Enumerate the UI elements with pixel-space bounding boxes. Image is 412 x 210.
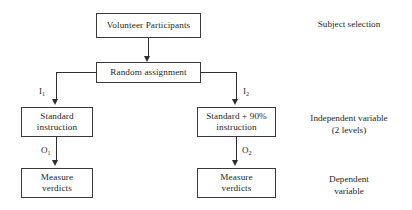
edge-label-i2: I2	[243, 86, 249, 97]
connector-standard90-to-measure-right	[236, 137, 237, 162]
annotation-independent-variable: Independent variable (2 levels)	[288, 113, 410, 136]
edge-label-o2-base: O	[242, 145, 249, 155]
connector-random-to-standard90-vertical	[236, 72, 237, 101]
annotation-dependent-variable-line1: Dependent	[288, 174, 410, 186]
connector-volunteer-to-random	[148, 38, 149, 57]
node-measure-verdicts-left-line2: verdicts	[42, 183, 72, 194]
arrowhead-random-to-standard-icon	[52, 99, 58, 105]
node-measure-verdicts-left: Measure verdicts	[21, 168, 93, 198]
node-measure-verdicts-right-line2: verdicts	[222, 183, 252, 194]
arrowhead-volunteer-to-random-icon	[144, 56, 150, 62]
node-volunteer-participants: Volunteer Participants	[96, 13, 201, 38]
node-standard-instruction: Standard instruction	[21, 107, 93, 137]
connector-standard-to-measure-left	[56, 137, 57, 162]
node-standard-instruction-line1: Standard	[40, 111, 73, 122]
node-measure-verdicts-right: Measure verdicts	[197, 168, 276, 198]
node-measure-verdicts-right-line1: Measure	[220, 172, 252, 183]
connector-random-to-standard-vertical	[56, 72, 57, 101]
edge-label-i1-sub: 1	[42, 90, 45, 97]
node-standard-plus-90-instruction-line1: Standard + 90%	[206, 111, 267, 122]
arrowhead-random-to-standard90-icon	[232, 99, 238, 105]
edge-label-o1-base: O	[41, 145, 48, 155]
experimental-design-diagram: Volunteer Participants Random assignment…	[0, 0, 412, 210]
arrowhead-standard90-to-measure-right-icon	[232, 160, 238, 166]
annotation-dependent-variable: Dependent variable	[288, 174, 410, 197]
node-random-assignment: Random assignment	[96, 62, 201, 83]
annotation-independent-variable-line2: (2 levels)	[288, 125, 410, 137]
edge-label-o1: O1	[41, 145, 51, 156]
annotation-independent-variable-line1: Independent variable	[288, 113, 410, 125]
connector-random-split-right-horizontal	[200, 72, 237, 73]
node-standard-plus-90-instruction-line2: instruction	[216, 122, 256, 133]
connector-random-split-left-horizontal	[56, 72, 97, 73]
annotation-subject-selection-line1: Subject selection	[288, 19, 410, 31]
edge-label-o2: O2	[242, 145, 252, 156]
edge-label-o2-sub: 2	[249, 149, 252, 156]
node-standard-plus-90-instruction: Standard + 90% instruction	[197, 107, 276, 137]
node-volunteer-participants-line1: Volunteer Participants	[107, 20, 190, 31]
annotation-subject-selection: Subject selection	[288, 19, 410, 31]
annotation-dependent-variable-line2: variable	[288, 186, 410, 198]
edge-label-i1: I1	[39, 86, 45, 97]
edge-label-o1-sub: 1	[48, 149, 51, 156]
arrowhead-standard-to-measure-left-icon	[52, 160, 58, 166]
node-standard-instruction-line2: instruction	[37, 122, 77, 133]
node-random-assignment-line1: Random assignment	[110, 67, 186, 78]
edge-label-i2-sub: 2	[246, 90, 249, 97]
node-measure-verdicts-left-line1: Measure	[41, 172, 73, 183]
